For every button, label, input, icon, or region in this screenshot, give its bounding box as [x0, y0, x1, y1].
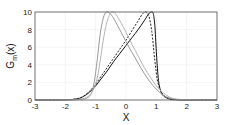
- y-tick-label: 8: [28, 26, 33, 35]
- y-tick-label: 4: [28, 61, 33, 70]
- x-tick-label: -1: [92, 102, 100, 111]
- svg-text:Gm(x): Gm(x): [5, 43, 18, 68]
- x-tick-label: -2: [62, 102, 70, 111]
- x-tick-label: 0: [124, 102, 129, 111]
- y-tick-label: 0: [28, 96, 33, 105]
- y-axis-ticks: 0246810: [23, 8, 32, 105]
- x-tick-label: 1: [154, 102, 159, 111]
- x-axis-ticks: -3-2-10123: [31, 102, 219, 111]
- line-chart: -3-2-10123 0246810 X Gm(x): [0, 0, 231, 125]
- y-tick-label: 2: [28, 78, 33, 87]
- y-tick-label: 6: [28, 43, 33, 52]
- y-tick-label: 10: [23, 8, 32, 17]
- x-tick-label: 2: [184, 102, 189, 111]
- grid-lines: [35, 12, 217, 100]
- y-axis-label: Gm(x): [5, 43, 18, 68]
- x-axis-label: X: [123, 112, 130, 123]
- x-tick-label: 3: [215, 102, 220, 111]
- x-tick-label: -3: [31, 102, 39, 111]
